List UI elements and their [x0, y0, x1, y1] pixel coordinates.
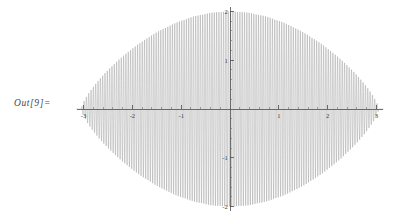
x-tick-label: -2	[130, 112, 136, 119]
x-tick-label: 1	[277, 112, 280, 119]
y-tick-label: 2	[225, 8, 228, 15]
out-prompt-label[interactable]: Out[9]=	[14, 98, 51, 108]
x-tick-label: 3	[375, 112, 379, 119]
plot-svg: -3-2-1123-2-112	[56, 0, 402, 221]
y-tick-label: -2	[222, 203, 228, 210]
x-tick-label: -3	[81, 112, 87, 119]
mathematica-output-cell: Out[9]= -3-2-1123-2-112	[0, 0, 402, 221]
plot-graphic[interactable]: -3-2-1123-2-112	[56, 0, 402, 221]
x-tick-label: 2	[326, 112, 329, 119]
x-tick-label: -1	[178, 112, 184, 119]
y-tick-label: 1	[225, 57, 228, 64]
y-tick-label: -1	[222, 154, 228, 161]
